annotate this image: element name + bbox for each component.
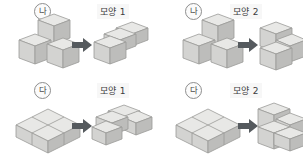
panel-4-stage bbox=[152, 95, 303, 158]
panel-1: 나 모양 1 bbox=[0, 0, 152, 79]
right-arrow-icon-3 bbox=[72, 119, 92, 133]
target-shape-1 bbox=[94, 26, 152, 72]
panel-2-stage bbox=[152, 16, 303, 79]
cube bbox=[183, 34, 215, 64]
panel-4: 다 모양 2 bbox=[152, 79, 303, 158]
cube bbox=[260, 42, 292, 70]
target-shape-2 bbox=[258, 18, 303, 76]
right-arrow-icon-2 bbox=[238, 38, 258, 52]
source-shape-2 bbox=[178, 18, 244, 76]
panel-3: 다 모양 1 bbox=[0, 79, 152, 158]
source-shape-1 bbox=[14, 18, 80, 76]
cube bbox=[19, 34, 51, 64]
right-arrow-icon-1 bbox=[72, 38, 92, 52]
cube bbox=[94, 36, 126, 64]
panel-2: 나 모양 2 bbox=[152, 0, 303, 79]
target-shape-3 bbox=[92, 107, 154, 155]
target-shape-4 bbox=[256, 95, 303, 155]
right-arrow-icon-4 bbox=[238, 119, 258, 133]
panel-1-stage bbox=[0, 16, 152, 79]
worksheet-grid: 나 모양 1 bbox=[0, 0, 303, 158]
source-shape-4 bbox=[174, 109, 244, 155]
panel-3-stage bbox=[0, 95, 152, 158]
